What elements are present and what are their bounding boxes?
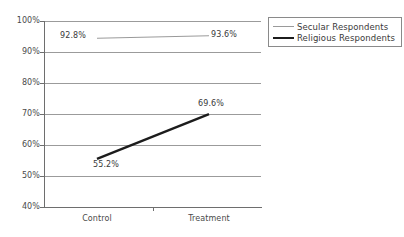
legend-item-religious[interactable]: Religious Respondents <box>273 32 395 43</box>
data-label-secular-treatment: 93.6% <box>211 30 237 39</box>
legend-label-secular: Secular Respondents <box>297 22 388 32</box>
legend-swatch-religious-icon <box>273 33 294 42</box>
data-label-religious-control: 55.2% <box>93 160 119 169</box>
legend-label-religious: Religious Respondents <box>297 33 395 43</box>
legend-item-secular[interactable]: Secular Respondents <box>273 21 395 32</box>
series-line-religious <box>97 114 209 159</box>
data-label-secular-control: 92.8% <box>60 31 86 40</box>
data-label-religious-treatment: 69.6% <box>198 99 224 108</box>
series-line-secular <box>97 36 209 39</box>
legend-swatch-secular-icon <box>273 22 294 31</box>
legend: Secular Respondents Religious Respondent… <box>268 17 402 47</box>
line-chart: 100% 90% 80% 70% 60% 50% 40% Control Tre… <box>0 0 404 237</box>
